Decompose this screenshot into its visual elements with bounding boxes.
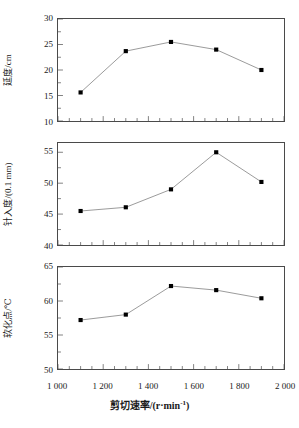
x-axis-title-text: 剪切速率/(r·min bbox=[110, 400, 181, 411]
data-point-marker bbox=[214, 150, 218, 154]
data-point-marker bbox=[169, 187, 173, 191]
plot-svg-2 bbox=[58, 267, 284, 369]
plot-area-2 bbox=[57, 266, 285, 370]
data-line bbox=[81, 152, 262, 211]
plot-svg-0 bbox=[58, 19, 284, 121]
data-line bbox=[81, 286, 262, 320]
data-point-marker bbox=[124, 49, 128, 53]
data-point-marker bbox=[79, 318, 83, 322]
x-axis: 1 0001 2001 4001 6001 8002 000 剪切速率/(r·m… bbox=[0, 380, 299, 428]
figure-container: 延度/cm 1015202530 针入度/(0.1 mm) 40455055 软… bbox=[0, 0, 299, 428]
y-axis-title-1: 针入度/(0.1 mm) bbox=[3, 139, 13, 249]
x-tick-label: 1 400 bbox=[138, 381, 158, 391]
x-tick-label: 1 800 bbox=[229, 381, 249, 391]
data-point-marker bbox=[79, 90, 83, 94]
x-axis-title: 剪切速率/(r·min-1) bbox=[0, 400, 299, 412]
x-tick-label: 2 000 bbox=[275, 381, 295, 391]
plot-svg-1 bbox=[58, 143, 284, 245]
data-point-marker bbox=[214, 48, 218, 52]
chart-panel-penetration: 针入度/(0.1 mm) 40455055 bbox=[0, 132, 299, 256]
y-tick-label: 55 bbox=[44, 331, 53, 340]
x-tick-label: 1 000 bbox=[47, 381, 67, 391]
y-tick-label: 25 bbox=[44, 40, 53, 49]
plot-area-0 bbox=[57, 18, 285, 122]
y-tick-label: 65 bbox=[44, 262, 53, 271]
y-tick-label: 60 bbox=[44, 296, 53, 305]
x-tick-label: 1 600 bbox=[184, 381, 204, 391]
data-point-marker bbox=[259, 296, 263, 300]
x-axis-ticklabels: 1 0001 2001 4001 6001 8002 000 bbox=[57, 381, 285, 393]
data-point-marker bbox=[259, 180, 263, 184]
chart-panel-softening-point: 软化点/℃ 50556065 bbox=[0, 256, 299, 380]
data-point-marker bbox=[169, 40, 173, 44]
data-point-marker bbox=[79, 209, 83, 213]
y-tick-label: 45 bbox=[44, 210, 53, 219]
y-tick-label: 15 bbox=[44, 92, 53, 101]
y-tick-label: 55 bbox=[44, 147, 53, 156]
data-point-marker bbox=[259, 68, 263, 72]
chart-panel-elongation: 延度/cm 1015202530 bbox=[0, 8, 299, 132]
y-tick-label: 20 bbox=[44, 66, 53, 75]
y-axis-title-2: 软化点/℃ bbox=[3, 263, 13, 373]
data-point-marker bbox=[124, 313, 128, 317]
y-axis-title-0: 延度/cm bbox=[3, 15, 13, 125]
plot-area-1 bbox=[57, 142, 285, 246]
y-tick-label: 40 bbox=[44, 242, 53, 251]
x-tick-label: 1 200 bbox=[92, 381, 112, 391]
data-point-marker bbox=[214, 288, 218, 292]
y-tick-label: 50 bbox=[44, 178, 53, 187]
y-tick-label: 50 bbox=[44, 366, 53, 375]
data-point-marker bbox=[124, 205, 128, 209]
y-tick-label: 30 bbox=[44, 14, 53, 23]
y-tick-label: 10 bbox=[44, 118, 53, 127]
x-axis-title-close: ) bbox=[186, 400, 189, 411]
data-point-marker bbox=[169, 284, 173, 288]
data-line bbox=[81, 42, 262, 92]
